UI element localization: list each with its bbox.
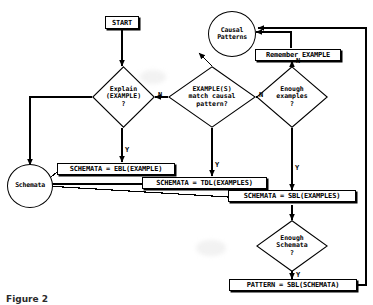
- node-tdl-label: SCHEMATA = TDL(EXAMPLES): [156, 179, 252, 187]
- edge-remember-to-causal-patterns: [256, 32, 291, 48]
- node-enough-examples: Enough examples ?: [256, 66, 328, 128]
- node-explain: Explain (EXAMPLE) ?: [92, 66, 155, 128]
- node-sbl-examples: SCHEMATA = SBL(EXAMPLES): [228, 190, 356, 202]
- node-start-label: START: [112, 19, 132, 27]
- edge-label-enough-examples-yes: Y: [295, 165, 299, 172]
- node-enough-schemata: Enough Schemata ?: [256, 220, 328, 272]
- node-causal-patterns-label: Causal Patterns: [217, 27, 247, 42]
- edge-label-explain-no: N: [158, 92, 162, 99]
- node-causal-patterns: Causal Patterns: [208, 11, 256, 57]
- node-pattern-sbl: PATTERN = SBL(SCHEMATA): [229, 279, 357, 291]
- node-schemata: Schemata: [7, 164, 53, 208]
- node-pattern-sbl-label: PATTERN = SBL(SCHEMATA): [247, 281, 339, 289]
- edge-label-explain-yes: Y: [125, 147, 129, 154]
- figure-caption: Figure 2: [6, 294, 48, 305]
- node-enough-examples-label: Enough examples ?: [256, 66, 328, 128]
- node-enough-schemata-label: Enough Schemata ?: [256, 220, 328, 272]
- flowchart-figure: START Causal Patterns Remember EXAMPLE E…: [0, 0, 373, 305]
- edge-label-enough-schemata-yes: Y: [296, 272, 300, 279]
- edge-match-to-causal-patterns: [199, 53, 212, 66]
- edge-label-match-no: N: [259, 92, 263, 99]
- node-match-pattern: EXAMPLE(S) match causal pattern?: [168, 66, 256, 128]
- node-ebl: SCHEMATA = EBL(EXAMPLE): [57, 163, 175, 175]
- node-schemata-label: Schemata: [15, 182, 45, 190]
- node-tdl: SCHEMATA = TDL(EXAMPLES): [142, 177, 267, 189]
- node-ebl-label: SCHEMATA = EBL(EXAMPLE): [70, 165, 162, 173]
- edge-label-match-yes: Y: [215, 162, 219, 169]
- scan-artifact: [196, 240, 226, 256]
- edge-explain-no-to-schemata: [30, 97, 92, 165]
- node-match-pattern-label: EXAMPLE(S) match causal pattern?: [168, 66, 256, 128]
- node-sbl-examples-label: SCHEMATA = SBL(EXAMPLES): [244, 192, 340, 200]
- node-explain-label: Explain (EXAMPLE) ?: [92, 66, 155, 128]
- edge-label-enough-examples-no: N: [296, 58, 300, 65]
- node-start: START: [105, 16, 139, 29]
